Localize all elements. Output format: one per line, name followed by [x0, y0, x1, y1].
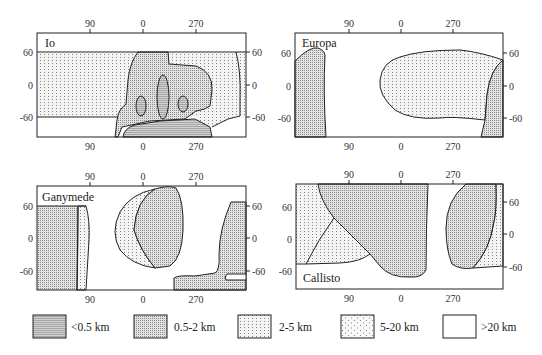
- svg-text:270: 270: [189, 18, 204, 29]
- panel-europa: Europa: [295, 33, 503, 137]
- svg-text:0: 0: [399, 169, 404, 180]
- figure-canvas: Io 90 0 270 90 0 270 60 0 -60 60 0 -60 E…: [0, 0, 542, 355]
- svg-text:-60: -60: [20, 112, 33, 123]
- legend-swatch-5-20km: [341, 315, 374, 338]
- svg-text:0: 0: [141, 18, 146, 29]
- legend-label: 5-20 km: [380, 321, 419, 333]
- svg-text:-60: -60: [279, 266, 292, 277]
- svg-text:-60: -60: [278, 113, 291, 124]
- svg-text:270: 270: [189, 141, 204, 152]
- svg-text:90: 90: [85, 141, 95, 152]
- svg-text:60: 60: [282, 202, 292, 213]
- svg-text:0: 0: [252, 233, 257, 244]
- svg-text:-60: -60: [20, 266, 33, 277]
- svg-text:-60: -60: [252, 266, 265, 277]
- svg-text:0: 0: [28, 80, 33, 91]
- panel-ganymede: Ganymede: [37, 186, 246, 290]
- svg-text:60: 60: [23, 201, 33, 212]
- svg-text:60: 60: [252, 201, 262, 212]
- svg-text:0: 0: [399, 18, 404, 29]
- svg-text:270: 270: [189, 171, 204, 182]
- svg-text:90: 90: [344, 169, 354, 180]
- svg-text:0: 0: [509, 229, 514, 240]
- svg-text:0: 0: [28, 233, 33, 244]
- svg-text:0: 0: [141, 294, 146, 305]
- svg-text:-60: -60: [252, 112, 265, 123]
- svg-text:270: 270: [446, 293, 461, 304]
- svg-text:0: 0: [141, 171, 146, 182]
- svg-text:90: 90: [85, 171, 95, 182]
- panel-title-io: Io: [45, 36, 55, 50]
- svg-text:90: 90: [344, 141, 354, 152]
- svg-text:60: 60: [252, 47, 262, 58]
- svg-text:270: 270: [446, 18, 461, 29]
- legend-swatch-2-5km: [238, 315, 271, 338]
- svg-text:270: 270: [189, 294, 204, 305]
- svg-text:0: 0: [399, 293, 404, 304]
- svg-text:0: 0: [286, 81, 291, 92]
- legend-swatch-lt-0-5km: [33, 315, 66, 338]
- legend-label: <0.5 km: [71, 321, 109, 333]
- svg-text:-60: -60: [509, 262, 522, 273]
- svg-text:0: 0: [252, 80, 257, 91]
- svg-text:60: 60: [509, 197, 519, 208]
- svg-text:90: 90: [85, 18, 95, 29]
- svg-text:270: 270: [446, 169, 461, 180]
- svg-text:0: 0: [509, 81, 514, 92]
- svg-text:90: 90: [344, 18, 354, 29]
- legend-label: 2-5 km: [279, 321, 312, 333]
- svg-text:0: 0: [141, 141, 146, 152]
- svg-text:270: 270: [446, 141, 461, 152]
- panel-title-ganymede: Ganymede: [42, 190, 94, 204]
- svg-text:60: 60: [281, 48, 291, 59]
- svg-text:60: 60: [509, 48, 519, 59]
- legend-swatch-0-5-2km: [134, 315, 167, 338]
- panel-io: Io: [37, 33, 246, 137]
- legend-label: 0.5-2 km: [174, 321, 216, 333]
- legend-swatch-gt-20km: [443, 315, 476, 338]
- svg-text:60: 60: [23, 47, 33, 58]
- svg-text:90: 90: [85, 294, 95, 305]
- panel-title-callisto: Callisto: [303, 271, 340, 285]
- panel-title-europa: Europa: [302, 36, 337, 50]
- svg-text:0: 0: [287, 234, 292, 245]
- legend-label: >20 km: [481, 321, 517, 333]
- panel-callisto: Callisto: [296, 184, 503, 289]
- svg-text:0: 0: [399, 141, 404, 152]
- svg-text:-60: -60: [509, 113, 522, 124]
- legend: <0.5 km 0.5-2 km 2-5 km 5-20 km >20 km: [33, 315, 517, 338]
- svg-text:90: 90: [344, 293, 354, 304]
